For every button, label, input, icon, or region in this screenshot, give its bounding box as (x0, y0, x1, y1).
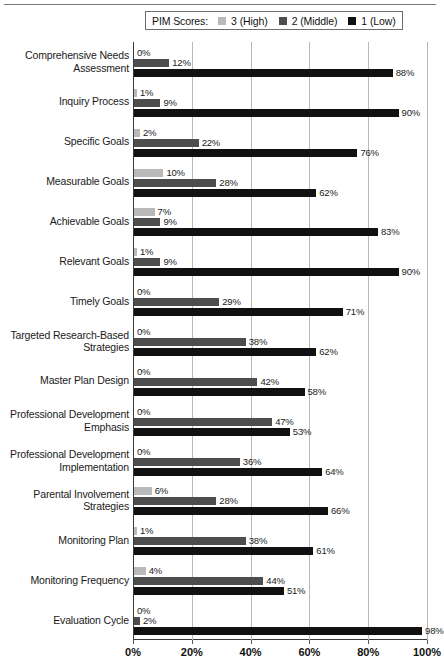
bar[interactable] (134, 218, 160, 226)
bar[interactable] (134, 189, 316, 197)
bar[interactable] (134, 248, 137, 256)
bar-row[interactable]: 4% (134, 567, 162, 575)
bar-row[interactable]: 62% (134, 189, 338, 197)
x-tick-60 (309, 640, 310, 644)
bar-row[interactable]: 9% (134, 258, 177, 266)
bar[interactable] (134, 537, 246, 545)
bar-row[interactable]: 90% (134, 268, 420, 276)
bar[interactable] (134, 338, 246, 346)
bar-row[interactable]: 71% (134, 308, 364, 316)
bar[interactable] (134, 348, 316, 356)
bar-row[interactable]: 6% (134, 487, 168, 495)
bar-row[interactable]: 36% (134, 458, 261, 466)
bar-row[interactable]: 88% (134, 69, 414, 77)
bar-row[interactable]: 9% (134, 218, 177, 226)
bar-row[interactable]: 58% (134, 388, 326, 396)
bar[interactable] (134, 149, 357, 157)
bar[interactable] (134, 567, 146, 575)
bar-row[interactable]: 2% (134, 129, 156, 137)
bar[interactable] (134, 298, 219, 306)
bar-row[interactable]: 90% (134, 109, 420, 117)
bar-row[interactable]: 61% (134, 547, 335, 555)
bar-row[interactable]: 83% (134, 228, 399, 236)
bar-row[interactable]: 1% (134, 527, 153, 535)
bar-row[interactable]: 7% (134, 208, 171, 216)
bar[interactable] (134, 139, 199, 147)
bar-row[interactable]: 66% (134, 507, 349, 515)
bar[interactable] (134, 109, 399, 117)
bar-row[interactable]: 0% (134, 49, 150, 57)
bar-row[interactable]: 44% (134, 577, 285, 585)
bar-row[interactable]: 2% (134, 617, 156, 625)
bar[interactable] (134, 99, 160, 107)
bar-row[interactable]: 9% (134, 99, 177, 107)
bar-value-label: 1% (140, 248, 153, 256)
bar-row[interactable]: 98% (134, 627, 444, 635)
bar[interactable] (134, 308, 343, 316)
top-divider-rule (4, 4, 436, 5)
bar-row[interactable]: 0% (134, 288, 150, 296)
bar-row[interactable]: 1% (134, 89, 153, 97)
bar[interactable] (134, 228, 378, 236)
bar[interactable] (134, 507, 328, 515)
bar[interactable] (134, 129, 140, 137)
bar[interactable] (134, 59, 169, 67)
bar-row[interactable]: 0% (134, 368, 150, 376)
bar[interactable] (134, 418, 272, 426)
bar[interactable] (134, 487, 152, 495)
bar-value-label: 58% (308, 388, 326, 396)
bar[interactable] (134, 468, 322, 476)
bar[interactable] (134, 169, 163, 177)
bar-value-label: 28% (219, 497, 237, 505)
bar-row[interactable]: 0% (134, 408, 150, 416)
x-tick-100 (427, 640, 428, 644)
bar[interactable] (134, 497, 216, 505)
bar[interactable] (134, 627, 422, 635)
bar-row[interactable]: 62% (134, 348, 338, 356)
bar-row[interactable]: 22% (134, 139, 220, 147)
bar[interactable] (134, 577, 263, 585)
category-label: Inquiry Process (1, 95, 129, 108)
bar-row[interactable]: 53% (134, 428, 311, 436)
bar-row[interactable]: 0% (134, 607, 150, 615)
bar-value-label: 88% (396, 69, 414, 77)
bar[interactable] (134, 458, 240, 466)
bar[interactable] (134, 208, 155, 216)
bar-row[interactable]: 38% (134, 537, 267, 545)
legend-entry-low: 1 (Low) (348, 15, 395, 27)
bar-row[interactable]: 10% (134, 169, 185, 177)
x-axis-tick-label: 20% (181, 646, 203, 658)
bar[interactable] (134, 378, 257, 386)
bar-value-label: 28% (219, 179, 237, 187)
bar-row[interactable]: 1% (134, 248, 153, 256)
bar[interactable] (134, 89, 137, 97)
bar-row[interactable]: 12% (134, 59, 191, 67)
x-axis-tick-label: 0% (125, 646, 141, 658)
bar[interactable] (134, 388, 305, 396)
bar[interactable] (134, 179, 216, 187)
bar-row[interactable]: 28% (134, 179, 238, 187)
bar-row[interactable]: 47% (134, 418, 294, 426)
bar[interactable] (134, 527, 137, 535)
bar-row[interactable]: 29% (134, 298, 241, 306)
bar-row[interactable]: 76% (134, 149, 379, 157)
bar[interactable] (134, 428, 290, 436)
bar-value-label: 0% (137, 448, 150, 456)
bar-group: 0%42%58% (134, 361, 427, 401)
bar[interactable] (134, 617, 140, 625)
bar[interactable] (134, 547, 313, 555)
bar-group: 1%9%90% (134, 82, 427, 122)
bar[interactable] (134, 587, 284, 595)
bar-row[interactable]: 64% (134, 468, 344, 476)
bar-row[interactable]: 42% (134, 378, 279, 386)
category-label: Specific Goals (1, 135, 129, 148)
bar-row[interactable]: 0% (134, 448, 150, 456)
bar-value-label: 0% (137, 288, 150, 296)
bar-row[interactable]: 28% (134, 497, 238, 505)
bar-row[interactable]: 38% (134, 338, 267, 346)
bar-row[interactable]: 0% (134, 328, 150, 336)
bar[interactable] (134, 258, 160, 266)
bar[interactable] (134, 268, 399, 276)
bar[interactable] (134, 69, 393, 77)
bar-row[interactable]: 51% (134, 587, 305, 595)
